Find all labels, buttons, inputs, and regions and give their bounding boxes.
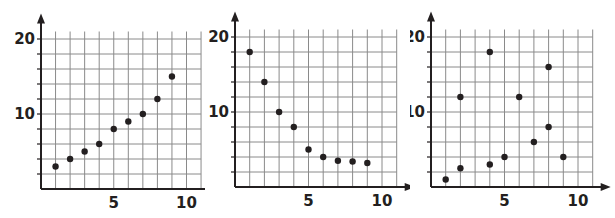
x-tick-label: 10 <box>568 192 589 210</box>
data-point <box>305 146 311 152</box>
data-point <box>545 64 551 70</box>
data-point <box>531 139 537 145</box>
data-point <box>501 154 507 160</box>
x-tick-label: 5 <box>499 192 509 210</box>
data-point <box>96 141 102 147</box>
data-point <box>320 154 326 160</box>
grid-lines <box>41 32 201 190</box>
grid-lines <box>431 30 593 188</box>
data-point <box>364 160 370 166</box>
scatter-plot-3: 1020510 <box>410 0 615 218</box>
data-point <box>443 176 449 182</box>
y-axis-arrow-icon <box>427 12 435 22</box>
data-point <box>487 161 493 167</box>
data-point <box>52 163 58 169</box>
data-point <box>140 111 146 117</box>
data-point <box>545 124 551 130</box>
y-tick-label: 20 <box>410 28 425 46</box>
x-tick-label: 5 <box>109 194 119 212</box>
axes <box>37 14 205 194</box>
x-axis-arrow-icon <box>601 183 611 191</box>
chart-panel-decreasing: 1020510 <box>205 0 410 218</box>
data-point <box>81 148 87 154</box>
x-tick-label: 10 <box>372 192 393 210</box>
data-point <box>111 126 117 132</box>
data-point <box>457 94 463 100</box>
data-point <box>125 118 131 124</box>
x-tick-label: 5 <box>303 192 313 210</box>
y-tick-label: 10 <box>208 103 229 121</box>
data-point <box>247 49 253 55</box>
data-point <box>335 158 341 164</box>
chart-panel-increasing: 1020510 <box>0 0 205 218</box>
data-point <box>169 73 175 79</box>
y-tick-label: 20 <box>208 28 229 46</box>
y-axis-arrow-icon <box>231 12 239 22</box>
data-point <box>487 49 493 55</box>
data-point <box>457 165 463 171</box>
data-point <box>291 124 297 130</box>
scatter-plot-1: 1020510 <box>0 0 205 218</box>
grid-lines <box>235 30 397 188</box>
scatter-plot-2: 1020510 <box>205 0 410 218</box>
y-tick-label: 10 <box>14 105 35 123</box>
data-point <box>516 94 522 100</box>
data-point <box>276 109 282 115</box>
tick-labels: 1020510 <box>410 28 588 210</box>
axes <box>231 12 410 192</box>
y-tick-label: 20 <box>14 30 35 48</box>
chart-panel-no-correlation: 1020510 <box>410 0 615 218</box>
x-tick-label: 10 <box>176 194 197 212</box>
y-axis-arrow-icon <box>37 14 45 24</box>
data-point <box>154 96 160 102</box>
data-point <box>67 156 73 162</box>
data-point <box>261 79 267 85</box>
data-point <box>560 154 566 160</box>
y-tick-label: 10 <box>410 103 425 121</box>
data-point <box>349 158 355 164</box>
